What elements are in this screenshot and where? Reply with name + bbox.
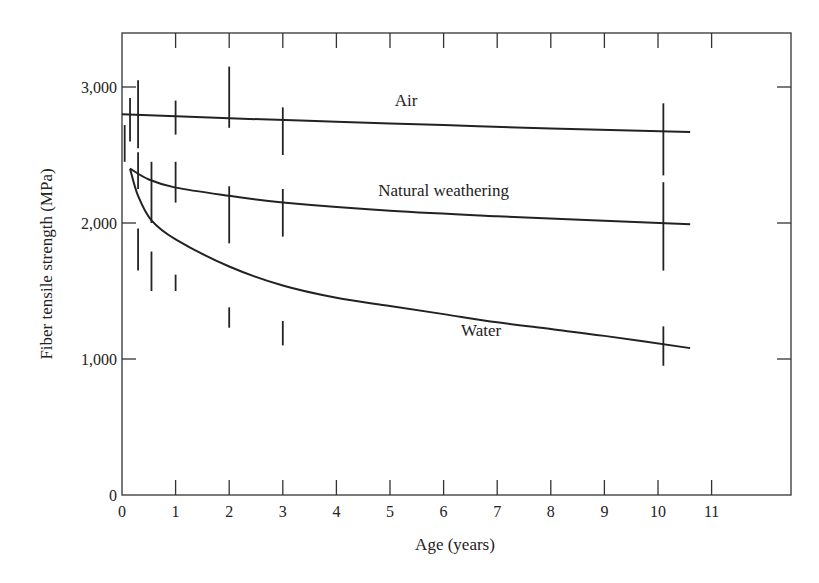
y-tick-label: 1,000	[81, 351, 117, 368]
x-tick-label: 4	[332, 503, 340, 520]
x-axis-label: Age (years)	[415, 535, 495, 554]
y-axis-ticks: 01,0002,0003,000	[81, 79, 791, 504]
y-axis-label: Fiber tensile strength (MPa)	[37, 168, 56, 359]
x-tick-label: 10	[650, 503, 666, 520]
series-label: Water	[461, 321, 501, 340]
x-tick-label: 3	[279, 503, 287, 520]
x-tick-label: 1	[172, 503, 180, 520]
x-tick-label: 11	[704, 503, 719, 520]
x-tick-label: 2	[225, 503, 233, 520]
y-tick-label: 3,000	[81, 79, 117, 96]
x-tick-label: 6	[440, 503, 448, 520]
x-axis-ticks: 01234567891011	[118, 33, 719, 520]
series-curve	[122, 114, 690, 132]
x-tick-label: 9	[600, 503, 608, 520]
y-tick-label: 0	[109, 487, 117, 504]
series-label: Natural weathering	[378, 181, 509, 200]
tensile-strength-chart: 01234567891011 01,0002,0003,000 AirNatur…	[0, 0, 819, 583]
x-tick-label: 7	[493, 503, 501, 520]
x-tick-label: 8	[547, 503, 555, 520]
series-label: Air	[395, 91, 418, 110]
series-air: Air	[122, 67, 690, 176]
data-series: AirNatural weatheringWater	[122, 67, 690, 366]
y-tick-label: 2,000	[81, 215, 117, 232]
x-tick-label: 0	[118, 503, 126, 520]
x-tick-label: 5	[386, 503, 394, 520]
series-natural-weathering: Natural weathering	[125, 125, 690, 271]
